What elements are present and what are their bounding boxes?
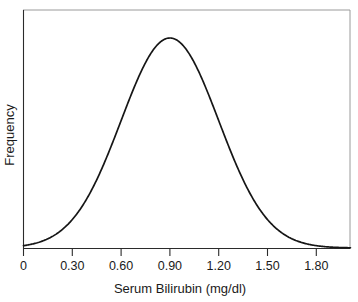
chart-figure: 0 0.30 0.60 0.90 1.20 1.50 1.80 Serum Bi… — [0, 0, 358, 302]
x-axis-title: Serum Bilirubin (mg/dl) — [114, 281, 246, 296]
x-tick-label-5: 1.50 — [255, 259, 279, 273]
chart-background — [0, 0, 358, 302]
frequency-distribution-chart: 0 0.30 0.60 0.90 1.20 1.50 1.80 Serum Bi… — [0, 0, 358, 302]
x-tick-label-4: 1.20 — [207, 259, 231, 273]
x-tick-label-2: 0.60 — [109, 259, 133, 273]
x-tick-label-3: 0.90 — [158, 259, 182, 273]
x-tick-label-0: 0 — [20, 259, 27, 273]
x-tick-label-1: 0.30 — [60, 259, 84, 273]
y-axis-title: Frequency — [2, 104, 17, 166]
x-tick-label-6: 1.80 — [304, 259, 328, 273]
